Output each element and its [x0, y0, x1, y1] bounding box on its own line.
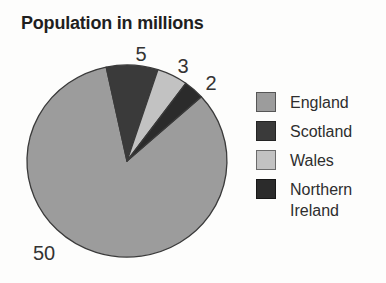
legend-item-england: England [256, 92, 386, 113]
legend-label-northern-ireland: Northern Ireland [290, 179, 386, 221]
slice-value-label-scotland: 5 [135, 43, 146, 65]
legend-swatch-wales [256, 150, 276, 170]
legend-item-scotland: Scotland [256, 121, 386, 142]
slice-value-label-northern-ireland: 2 [205, 72, 216, 94]
legend-item-northern-ireland: Northern Ireland [256, 179, 386, 221]
slice-value-label-england: 50 [33, 242, 55, 264]
legend: England Scotland Wales Northern Ireland [256, 92, 386, 229]
legend-swatch-northern-ireland [256, 179, 276, 199]
legend-label-wales: Wales [290, 150, 334, 171]
legend-label-england: England [290, 92, 349, 113]
legend-label-scotland: Scotland [290, 121, 352, 142]
legend-swatch-england [256, 92, 276, 112]
legend-item-wales: Wales [256, 150, 386, 171]
legend-swatch-scotland [256, 121, 276, 141]
slice-value-label-wales: 3 [177, 55, 188, 77]
chart-canvas: Population in millions 50532 England Sco… [0, 0, 386, 283]
